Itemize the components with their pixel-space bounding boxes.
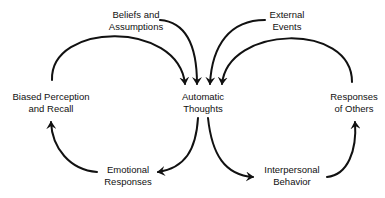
node-emotional-line1: Emotional xyxy=(98,164,158,176)
node-beliefs-line2: Assumptions xyxy=(96,21,176,33)
node-interpersonal-line1: Interpersonal xyxy=(258,164,326,176)
node-beliefs-and-assumptions: Beliefs and Assumptions xyxy=(96,9,176,33)
node-interpersonal-line2: Behavior xyxy=(258,176,326,188)
arrow-interpersonal-to-others xyxy=(327,122,355,177)
node-biased-line2: and Recall xyxy=(6,103,96,115)
node-beliefs-line1: Beliefs and xyxy=(96,9,176,21)
node-external-line2: Events xyxy=(259,21,315,33)
arrow-others-to-automatic xyxy=(222,38,352,84)
arrow-external-to-automatic xyxy=(210,20,265,84)
node-automatic-line1: Automatic xyxy=(172,91,234,103)
node-emotional-responses: Emotional Responses xyxy=(98,164,158,188)
node-automatic-line2: Thoughts xyxy=(172,103,234,115)
arrow-emotional-to-biased xyxy=(51,122,97,172)
node-external-line1: External xyxy=(259,9,315,21)
node-biased-line1: Biased Perception xyxy=(6,91,96,103)
arrow-automatic-to-interpersonal xyxy=(208,118,253,177)
arrow-biased-to-automatic xyxy=(52,36,185,84)
node-others-line2: of Others xyxy=(326,103,382,115)
node-emotional-line2: Responses xyxy=(98,176,158,188)
node-others-line1: Responses xyxy=(326,91,382,103)
node-biased-perception-and-recall: Biased Perception and Recall xyxy=(6,91,96,115)
node-responses-of-others: Responses of Others xyxy=(326,91,382,115)
node-automatic-thoughts: Automatic Thoughts xyxy=(172,91,234,115)
node-interpersonal-behavior: Interpersonal Behavior xyxy=(258,164,326,188)
node-external-events: External Events xyxy=(259,9,315,33)
arrow-automatic-to-emotional xyxy=(158,118,198,172)
